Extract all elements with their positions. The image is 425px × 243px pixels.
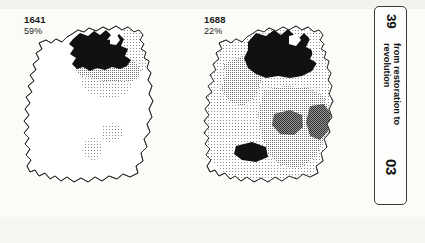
ireland-map-1688 bbox=[190, 6, 370, 221]
chapter-title-line-2: revolution bbox=[382, 43, 392, 87]
scanned-page: 1641 59% bbox=[0, 0, 425, 243]
chapter-number: 39 bbox=[384, 14, 399, 29]
ireland-map-1641 bbox=[10, 6, 190, 221]
chapter-sidebar-tab: 39 from restoration to revolution 03 bbox=[374, 6, 407, 205]
map-panel-1688: 1688 22% bbox=[190, 0, 370, 243]
chapter-title-line-1: from restoration to bbox=[392, 43, 402, 125]
page-number: 03 bbox=[383, 159, 400, 175]
map-panel-1641: 1641 59% bbox=[10, 0, 190, 243]
shaded-region-black-ulster bbox=[244, 29, 317, 78]
